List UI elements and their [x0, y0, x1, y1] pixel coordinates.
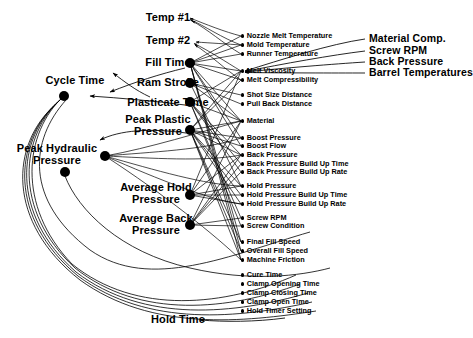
bullet-icon	[241, 94, 244, 97]
bullet-icon	[241, 203, 244, 206]
bullet-icon	[241, 145, 244, 148]
intermediate-item-label: Overall Fill Speed	[247, 246, 308, 255]
intermediate-item-label: Hold Timer Setting	[247, 306, 312, 315]
intermediate-item-label: Back Pressure Build Up Rate	[247, 167, 348, 176]
bullet-icon	[241, 283, 244, 286]
intermediate-item-label: Hold Pressure Build Up Rate	[247, 199, 346, 208]
intermediate-item-label: Back Pressure	[247, 150, 298, 159]
bullet-icon	[241, 79, 244, 82]
bullet-icon	[241, 241, 244, 244]
bullet-icon	[241, 250, 244, 253]
root-cause-item[interactable]: Barrel Temperatures	[369, 67, 473, 78]
intermediate-item[interactable]: Clamp Opening Time	[241, 280, 320, 288]
intermediate-item-label: Runner Temperature	[247, 49, 318, 58]
intermediate-item[interactable]: Hold Pressure Build Up Rate	[241, 200, 346, 208]
intermediate-item[interactable]: Boost Flow	[241, 142, 286, 150]
bullet-icon	[241, 137, 244, 140]
intermediate-item-label: Final Fill Speed	[247, 237, 301, 246]
output-label-temp2[interactable]: Temp #2	[146, 35, 191, 47]
intermediate-item-label: Clamp Open Time	[247, 297, 309, 306]
intermediate-item[interactable]: Machine Friction	[241, 256, 305, 264]
intermediate-item[interactable]: Screw Condition	[241, 222, 304, 230]
intermediate-item[interactable]: Material	[241, 117, 274, 125]
intermediate-item-label: Mold Temperature	[247, 40, 310, 49]
intermediate-item-label: Screw Condition	[247, 221, 305, 230]
bullet-icon	[241, 194, 244, 197]
output-label-average-back-pressure[interactable]: Average Back Pressure	[119, 213, 193, 237]
intermediate-item[interactable]: Back Pressure Build Up Rate	[241, 168, 347, 176]
bullet-icon	[241, 154, 244, 157]
intermediate-item-label: Cure Time	[247, 270, 283, 279]
bullet-icon	[241, 225, 244, 228]
output-node-dot[interactable]	[185, 220, 195, 230]
intermediate-item[interactable]: Cure Time	[241, 271, 282, 279]
output-label-hold-time[interactable]: Hold Time	[151, 314, 205, 326]
intermediate-item-label: Hold Pressure	[247, 181, 296, 190]
bullet-icon	[241, 163, 244, 166]
intermediate-item-label: Nozzle Melt Temperature	[247, 31, 332, 40]
intermediate-item-label: Melt Compressibility	[247, 75, 318, 84]
output-label-peak-plastic-pressure[interactable]: Peak Plastic Pressure	[125, 114, 190, 138]
output-node-dot[interactable]	[185, 125, 195, 135]
output-label-fill-time[interactable]: Fill Time	[145, 57, 190, 69]
bullet-icon	[241, 259, 244, 262]
intermediate-item[interactable]: Shot Size Distance	[241, 91, 312, 99]
output-label-peak-hydraulic-pressure[interactable]: Peak Hydraulic Pressure	[17, 143, 97, 167]
bullet-icon	[241, 120, 244, 123]
intermediate-item[interactable]: Back Pressure	[241, 151, 298, 159]
intermediate-item-label: Material	[247, 116, 275, 125]
bullet-icon	[241, 171, 244, 174]
bullet-icon	[241, 217, 244, 220]
bullet-icon	[241, 35, 244, 38]
intermediate-item-label: Hold Pressure Build Up Time	[247, 190, 347, 199]
intermediate-item[interactable]: Nozzle Melt Temperature	[241, 32, 332, 40]
intermediate-item[interactable]: Melt Viscosity	[241, 67, 295, 75]
intermediate-item[interactable]: Hold Pressure Build Up Time	[241, 191, 347, 199]
bullet-icon	[241, 53, 244, 56]
intermediate-item[interactable]: Hold Pressure	[241, 182, 296, 190]
bullet-icon	[241, 185, 244, 188]
output-node-dot[interactable]	[185, 190, 195, 200]
output-label-temp1[interactable]: Temp #1	[146, 12, 191, 24]
output-label-plasticate-time[interactable]: Plasticate Time	[127, 97, 208, 109]
intermediate-item[interactable]: Hold Timer Setting	[241, 307, 312, 315]
intermediate-item[interactable]: Pull Back Distance	[241, 100, 312, 108]
intermediate-item-label: Pull Back Distance	[247, 99, 312, 108]
bullet-icon	[241, 70, 244, 73]
bullet-icon	[241, 274, 244, 277]
output-label-cycle-time[interactable]: Cycle Time	[46, 75, 105, 87]
bullet-icon	[241, 292, 244, 295]
intermediate-item[interactable]: Final Fill Speed	[241, 238, 300, 246]
output-node-dot[interactable]	[100, 151, 110, 161]
bullet-icon	[241, 310, 244, 313]
intermediate-item-label: Boost Flow	[247, 141, 286, 150]
intermediate-item[interactable]: Mold Temperature	[241, 41, 310, 49]
intermediate-item-label: Melt Viscosity	[247, 66, 296, 75]
intermediate-item-label: Machine Friction	[247, 255, 305, 264]
output-label-average-hold-pressure[interactable]: Average Hold Pressure	[120, 182, 192, 206]
output-node-dot[interactable]	[185, 97, 195, 107]
root-cause-item[interactable]: Material Comp.	[369, 33, 446, 44]
output-node-dot[interactable]	[185, 58, 195, 68]
output-node-dot[interactable]	[59, 91, 69, 101]
output-node-dot[interactable]	[185, 78, 195, 88]
intermediate-item[interactable]: Melt Compressibility	[241, 76, 318, 84]
intermediate-item-label: Clamp Opening Time	[247, 279, 320, 288]
intermediate-item[interactable]: Clamp Closing Time	[241, 289, 317, 297]
intermediate-item[interactable]: Runner Temperature	[241, 50, 318, 58]
intermediate-item[interactable]: Clamp Open Time	[241, 298, 309, 306]
intermediate-item-label: Shot Size Distance	[247, 90, 312, 99]
bullet-icon	[241, 44, 244, 47]
intermediate-item-label: Clamp Closing Time	[247, 288, 317, 297]
output-node-dot[interactable]	[60, 167, 70, 177]
bullet-icon	[241, 301, 244, 304]
bullet-icon	[241, 103, 244, 106]
intermediate-item[interactable]: Overall Fill Speed	[241, 247, 308, 255]
